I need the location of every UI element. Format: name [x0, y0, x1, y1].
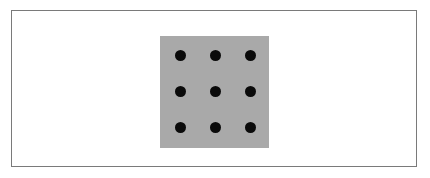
dot-r1-c3 — [245, 50, 256, 61]
dot-r3-c3 — [245, 122, 256, 133]
dot-r2-c1 — [175, 86, 186, 97]
dot-r3-c1 — [175, 122, 186, 133]
dot-r3-c2 — [210, 122, 221, 133]
dot-r2-c2 — [210, 86, 221, 97]
dot-r1-c2 — [210, 50, 221, 61]
dot-r1-c1 — [175, 50, 186, 61]
dot-r2-c3 — [245, 86, 256, 97]
